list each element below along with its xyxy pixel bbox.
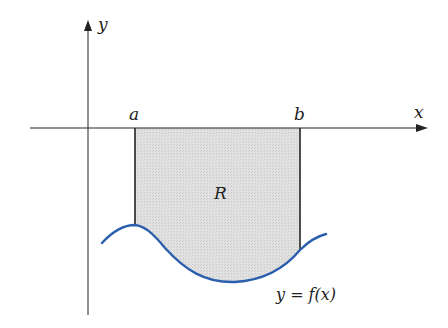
b-label: b	[294, 104, 305, 124]
region-r	[135, 128, 300, 282]
region-label: R	[213, 183, 227, 203]
y-axis-arrow-icon	[84, 20, 92, 31]
y-axis-label: y	[97, 14, 108, 34]
x-axis-label: x	[414, 102, 424, 122]
x-axis-arrow-icon	[416, 124, 428, 132]
diagram-canvas: y x a b R y = f(x)	[0, 0, 448, 328]
curve-label: y = f(x)	[275, 285, 336, 304]
a-label: a	[129, 104, 139, 124]
